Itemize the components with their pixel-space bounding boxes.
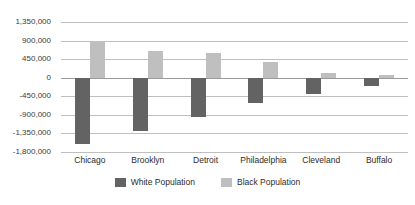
bar-group: [61, 22, 119, 152]
y-axis-tick-label: 450,000: [0, 55, 51, 63]
population-change-bar-chart: 1,350,000900,000450,0000-450,000-900,000…: [0, 0, 415, 205]
x-axis-category-label: Cleveland: [302, 155, 340, 165]
y-axis-tick-label: -450,000: [0, 92, 51, 100]
x-axis-category-label: Philadelphia: [240, 155, 286, 165]
x-axis-category-label: Detroit: [193, 155, 218, 165]
legend-item[interactable]: White Population: [115, 177, 195, 187]
legend-label: Black Population: [237, 177, 300, 187]
legend-label: White Population: [131, 177, 195, 187]
y-axis-tick-label: 0: [0, 74, 51, 82]
legend-swatch-icon: [115, 178, 126, 187]
legend-item[interactable]: Black Population: [221, 177, 300, 187]
gridline: [61, 152, 408, 153]
y-axis-tick-label: 1,350,000: [0, 18, 51, 26]
bar-white-population: [75, 78, 90, 144]
y-axis-tick-label: -1,350,000: [0, 129, 51, 137]
bar-black-population: [263, 62, 278, 78]
x-axis-category-labels: ChicagoBrooklynDetroitPhiladelphiaClevel…: [61, 155, 408, 169]
y-axis-tick-label: -900,000: [0, 111, 51, 119]
bar-black-population: [379, 75, 394, 77]
bar-group: [119, 22, 177, 152]
bar-white-population: [133, 78, 148, 132]
bar-series-container: [61, 22, 408, 152]
bar-group: [177, 22, 235, 152]
chart-legend: White PopulationBlack Population: [0, 177, 415, 187]
bar-white-population: [306, 78, 321, 95]
plot-area: 1,350,000900,000450,0000-450,000-900,000…: [61, 22, 408, 152]
bar-black-population: [206, 53, 221, 78]
bar-group: [292, 22, 350, 152]
bar-white-population: [364, 78, 379, 86]
bar-black-population: [148, 51, 163, 78]
bar-group: [350, 22, 408, 152]
x-axis-category-label: Buffalo: [366, 155, 392, 165]
x-axis-category-label: Brooklyn: [131, 155, 164, 165]
bar-white-population: [248, 78, 263, 104]
bar-black-population: [321, 73, 336, 78]
bar-white-population: [191, 78, 206, 117]
bar-black-population: [90, 41, 105, 77]
y-axis-tick-label: -1,800,000: [0, 148, 51, 156]
legend-swatch-icon: [221, 178, 232, 187]
y-axis-tick-label: 900,000: [0, 37, 51, 45]
bar-group: [235, 22, 293, 152]
x-axis-category-label: Chicago: [74, 155, 105, 165]
